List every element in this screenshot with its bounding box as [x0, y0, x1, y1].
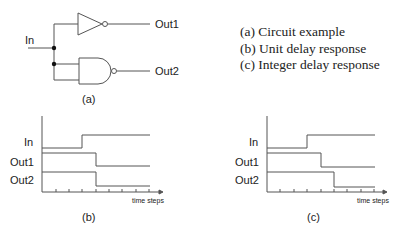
- inverter-gate-icon: [78, 13, 102, 35]
- arrow-icon: [383, 190, 387, 194]
- signal-in: [42, 135, 150, 148]
- timing-diagram-c: [267, 116, 387, 194]
- signal-out2: [267, 172, 375, 187]
- legend-item-a: (a) Circuit example: [240, 24, 380, 41]
- out2-label: Out2: [155, 65, 179, 77]
- b-out1-label: Out1: [10, 156, 34, 168]
- signal-in: [267, 135, 375, 148]
- legend: (a) Circuit example (b) Unit delay respo…: [240, 24, 380, 74]
- circuit-diagram: [28, 13, 150, 84]
- b-out2-label: Out2: [10, 174, 34, 186]
- signal-out2: [42, 172, 150, 186]
- signal-out1: [267, 153, 375, 167]
- b-in-label: In: [24, 136, 33, 148]
- junction-dot-icon: [52, 46, 56, 50]
- inverter-bubble-icon: [103, 22, 108, 27]
- nand-gate-icon: [79, 58, 111, 84]
- c-out2-label: Out2: [235, 174, 259, 186]
- circuit-caption: (a): [82, 93, 95, 105]
- signal-out1: [42, 153, 150, 166]
- arrow-icon: [159, 190, 163, 194]
- junction-dot-icon: [52, 62, 56, 66]
- legend-item-b: (b) Unit delay response: [240, 41, 380, 58]
- c-x-label: time steps: [357, 197, 389, 205]
- c-out1-label: Out1: [235, 156, 259, 168]
- timing-diagram-b: [42, 116, 163, 194]
- c-caption: (c): [307, 211, 320, 223]
- b-x-label: time steps: [132, 197, 164, 205]
- out1-label: Out1: [155, 18, 179, 30]
- input-label: In: [25, 34, 34, 46]
- legend-item-c: (c) Integer delay response: [240, 57, 380, 74]
- c-in-label: In: [249, 136, 258, 148]
- nand-bubble-icon: [112, 69, 117, 74]
- b-caption: (b): [82, 211, 95, 223]
